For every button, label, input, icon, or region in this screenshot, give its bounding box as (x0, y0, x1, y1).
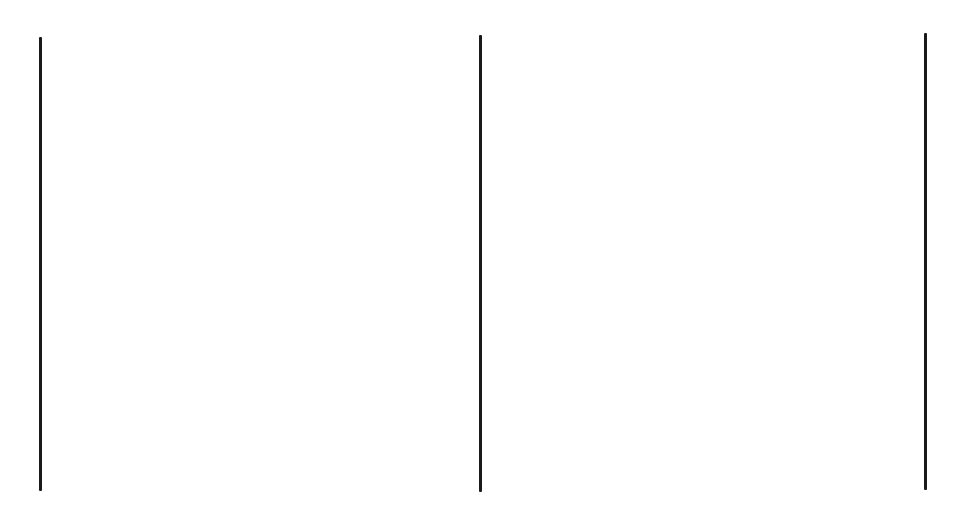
center-column-rule (479, 35, 482, 492)
right-margin-rule (924, 33, 927, 490)
dot-text-block (90, 188, 468, 226)
dot-text-block (122, 451, 407, 494)
dot-text-block (537, 113, 913, 151)
dot-text-block (58, 302, 470, 345)
dot-text-block (497, 375, 913, 418)
dot-text-block (537, 188, 913, 226)
dot-text-block (73, 113, 453, 151)
dot-text-block (58, 40, 438, 78)
dot-text-block (88, 376, 442, 418)
scanned-page (0, 0, 961, 505)
left-margin-rule (39, 37, 42, 491)
dot-text-block (497, 40, 913, 78)
dot-text-block (497, 450, 913, 492)
dot-text-block (497, 302, 913, 345)
